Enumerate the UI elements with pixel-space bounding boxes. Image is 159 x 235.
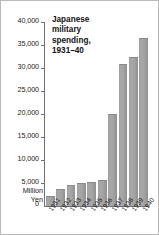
bar [129, 57, 138, 206]
y-axis-tick-label: 35,000 [18, 40, 39, 47]
chart-title-line: military [52, 25, 112, 35]
y-axis-tick-label: 15,000 [18, 132, 39, 139]
y-axis-tick-label: 25,000 [18, 86, 39, 93]
y-axis-unit-line: Million [5, 186, 43, 195]
y-axis-tick-label: 5,000 [22, 178, 40, 185]
bar [139, 38, 148, 206]
chart-title-line: 1931–40 [52, 46, 112, 56]
bar [119, 64, 128, 206]
y-axis-tick-label: 30,000 [18, 63, 39, 70]
chart-title: Japanesemilitaryspending,1931–40 [52, 15, 112, 57]
y-axis-tick-label: 10,000 [18, 155, 39, 162]
chart-title-line: spending, [52, 36, 112, 46]
bar [108, 114, 117, 206]
chart-title-line: Japanese [52, 15, 112, 25]
y-axis-tick-label: 40,000 [18, 17, 39, 24]
y-axis-tick-label: 20,000 [18, 109, 39, 116]
y-axis-zero-label: 0 [35, 200, 39, 207]
chart-figure: 40,00035,00030,00025,00020,00015,00010,0… [0, 0, 159, 235]
x-axis-ticks: 1931193219331934193519361937193819391940 [45, 207, 149, 235]
